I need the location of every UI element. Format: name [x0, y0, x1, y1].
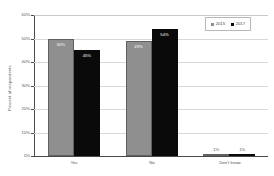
- legend-label: 2015: [216, 22, 225, 26]
- y-tick-label: 60%: [22, 13, 30, 17]
- bar-value-label: 49%: [127, 45, 151, 49]
- y-tick-mark: [31, 39, 34, 40]
- legend: 20152017: [205, 17, 251, 31]
- bar[interactable]: 54%: [152, 29, 178, 156]
- bar-value-label: 1%: [230, 148, 254, 152]
- y-tick-label: 10%: [22, 130, 30, 134]
- bar-value-label: 45%: [75, 54, 99, 58]
- y-tick-label: 50%: [22, 36, 30, 40]
- bar-pair: 49%54%: [126, 15, 178, 156]
- y-tick-mark: [31, 156, 34, 157]
- bar[interactable]: 45%: [74, 50, 100, 156]
- bar-pair: 1%1%: [203, 15, 255, 156]
- legend-entry[interactable]: 2015: [211, 22, 225, 26]
- y-tick-label: 20%: [22, 107, 30, 111]
- bar-chart: Percent of respondents 0%10%20%30%40%50%…: [0, 0, 274, 176]
- x-axis-label: Don't know: [191, 160, 269, 165]
- plot-area: 0%10%20%30%40%50%60% 50%45%49%54%1%1%: [34, 15, 268, 156]
- y-tick-mark: [31, 133, 34, 134]
- bar-value-label: 50%: [49, 43, 73, 47]
- bar[interactable]: 1%: [203, 154, 229, 156]
- x-axis-labels: YesNoDon't know: [35, 160, 269, 165]
- legend-swatch-icon: [231, 23, 234, 26]
- y-tick-label: 0%: [24, 154, 30, 158]
- gridline: [34, 156, 268, 157]
- bar-pair: 50%45%: [48, 15, 100, 156]
- y-tick-mark: [31, 86, 34, 87]
- y-axis-title: Percent of respondents: [7, 65, 12, 111]
- legend-entry[interactable]: 2017: [231, 22, 245, 26]
- y-tick-mark: [31, 62, 34, 63]
- bar[interactable]: 50%: [48, 39, 74, 157]
- bar[interactable]: 49%: [126, 41, 152, 156]
- x-axis-label: Yes: [35, 160, 113, 165]
- bar[interactable]: 1%: [229, 154, 255, 156]
- y-tick-label: 30%: [22, 83, 30, 87]
- bar-group: 49%54%: [113, 15, 191, 156]
- bar-group: 50%45%: [35, 15, 113, 156]
- legend-swatch-icon: [211, 23, 214, 26]
- x-axis-label: No: [113, 160, 191, 165]
- bar-value-label: 1%: [204, 148, 228, 152]
- bar-value-label: 54%: [153, 33, 177, 37]
- legend-label: 2017: [236, 22, 245, 26]
- y-tick-label: 40%: [22, 60, 30, 64]
- bar-group: 1%1%: [190, 15, 268, 156]
- y-tick-mark: [31, 109, 34, 110]
- bar-groups: 50%45%49%54%1%1%: [35, 15, 268, 156]
- y-tick-mark: [31, 15, 34, 16]
